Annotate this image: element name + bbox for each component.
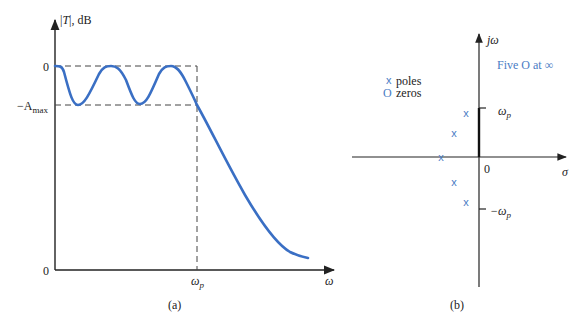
caption-b: (b) xyxy=(450,298,464,312)
pole-marker: x xyxy=(451,176,457,188)
panel-b-pole-zero-plot: jω σ 0 ωp −ωp x x x x x x poles O zeros … xyxy=(352,33,569,312)
y-tick-amax: −Amax xyxy=(17,99,48,115)
figure-canvas: |T|, dB 0 −Amax 0 ωp ω (a) jω σ 0 ωp −ωp… xyxy=(0,0,581,326)
origin-label: 0 xyxy=(484,162,490,176)
y-tick-0-bottom: 0 xyxy=(43,264,49,278)
neg-wp-label: −ωp xyxy=(490,204,512,220)
caption-a: (a) xyxy=(168,298,181,312)
zeros-at-infinity-note: Five O at ∞ xyxy=(497,58,553,72)
legend-zero-label: zeros xyxy=(396,86,422,100)
wp-label: ωp xyxy=(498,104,511,120)
panel-a-magnitude-response: |T|, dB 0 −Amax 0 ωp ω (a) xyxy=(17,13,334,312)
pole-marker: x xyxy=(463,107,469,119)
legend-pole-symbol: x xyxy=(386,74,392,86)
jw-axis-label: jω xyxy=(485,33,499,47)
x-tick-wp: ωp xyxy=(191,274,204,290)
magnitude-curve xyxy=(55,66,308,258)
y-tick-0-db: 0 xyxy=(43,60,49,74)
legend-zero-symbol: O xyxy=(383,86,392,100)
x-axis-label-omega: ω xyxy=(325,274,333,288)
legend: x poles O zeros xyxy=(383,74,422,100)
pole-marker: x xyxy=(451,127,457,139)
pole-marker: x xyxy=(463,196,469,208)
sigma-axis-label: σ xyxy=(562,165,569,179)
pole-marker: x xyxy=(438,151,444,163)
y-axis-label: |T|, dB xyxy=(60,13,92,27)
